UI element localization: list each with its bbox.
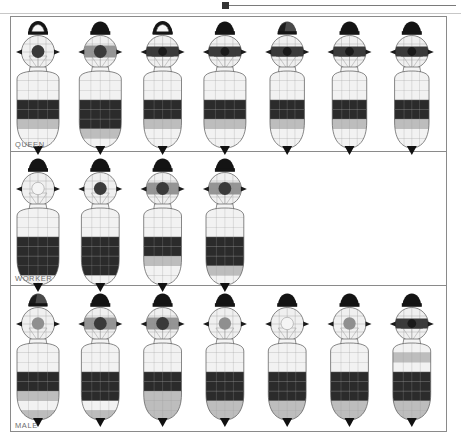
abdomen bbox=[269, 71, 305, 148]
bee-caste-figure: QUEEN WORKER MALE bbox=[0, 0, 461, 438]
caste-label-male: MALE bbox=[15, 421, 38, 430]
eye-core bbox=[221, 47, 230, 56]
abdomen bbox=[143, 71, 183, 148]
eye bbox=[32, 317, 44, 329]
eye bbox=[219, 182, 232, 195]
eye bbox=[281, 317, 293, 329]
eye bbox=[219, 317, 231, 329]
eye-core bbox=[283, 47, 292, 56]
eye bbox=[32, 182, 44, 194]
scale-bar-marker bbox=[0, 2, 461, 14]
eye-core bbox=[158, 47, 167, 56]
eye bbox=[156, 317, 169, 330]
eye bbox=[343, 317, 355, 329]
eye bbox=[94, 317, 107, 330]
eye bbox=[32, 45, 45, 58]
eye-core bbox=[407, 319, 416, 328]
abdomen bbox=[331, 71, 367, 148]
eye-core bbox=[345, 47, 354, 56]
caste-label-worker: WORKER bbox=[15, 274, 52, 283]
abdomen bbox=[78, 71, 122, 148]
eye bbox=[94, 182, 107, 195]
abdomen bbox=[205, 343, 245, 420]
abdomen bbox=[16, 71, 60, 148]
abdomen bbox=[205, 208, 245, 285]
abdomen bbox=[394, 71, 430, 148]
abdomen bbox=[16, 343, 60, 420]
abdomen bbox=[143, 208, 183, 285]
eye-core bbox=[407, 47, 416, 56]
abdomen bbox=[267, 343, 307, 420]
abdomen bbox=[143, 343, 183, 420]
abdomen bbox=[392, 343, 432, 420]
abdomen bbox=[330, 343, 370, 420]
abdomen bbox=[203, 71, 247, 148]
abdomen bbox=[80, 343, 120, 420]
eye bbox=[156, 182, 169, 195]
eye bbox=[94, 45, 107, 58]
caste-label-queen: QUEEN bbox=[15, 140, 45, 149]
abdomen bbox=[80, 208, 120, 285]
